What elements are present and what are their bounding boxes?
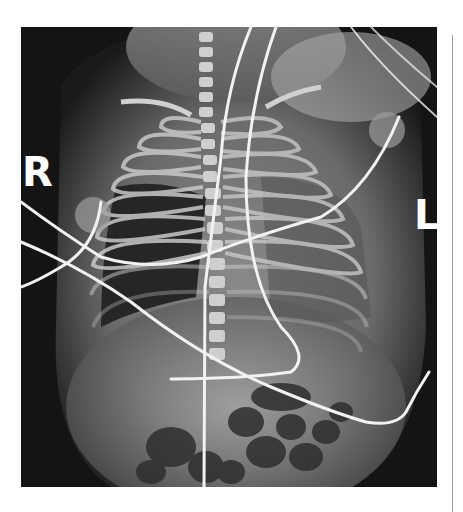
- left-side-marker: L: [414, 195, 438, 235]
- radiograph-image: [21, 27, 437, 487]
- xray-illustration: [21, 27, 437, 487]
- page-divider-line: [452, 35, 453, 512]
- right-side-marker: R: [22, 152, 53, 192]
